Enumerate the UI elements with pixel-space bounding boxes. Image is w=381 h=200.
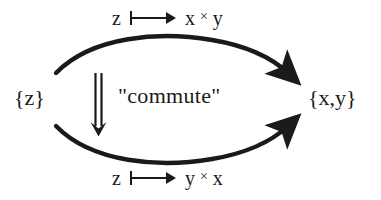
upper-label-output-second: y [213,8,223,28]
mapsto-head [166,12,176,24]
upper-label-input: z [112,8,121,28]
node-source-label: {z} [14,87,45,109]
mapsto-shaft [131,177,168,180]
mapsto-arrow-icon [130,168,176,188]
mapsto-head [166,172,176,184]
times-icon: × [200,10,208,24]
lower-label-input: z [112,168,121,188]
upper-label-output-first: x [185,8,195,28]
upper-arrow-label: z x × y [112,8,223,28]
commutative-diagram: {z} {x,y} z x × y z y × x "commute" [0,0,381,200]
double-down-arrow-icon [87,72,111,138]
node-target-label: {x,y} [308,87,357,109]
mapsto-arrow-icon [130,8,176,28]
commute-annotation: "commute" [118,83,221,109]
lower-arrow-label: z y × x [112,168,223,188]
lower-label-output-first: y [185,168,195,188]
mapsto-shaft [131,17,168,20]
upper-curved-arrow-path [56,36,288,73]
lower-label-output-second: x [213,168,223,188]
times-icon: × [200,170,208,184]
